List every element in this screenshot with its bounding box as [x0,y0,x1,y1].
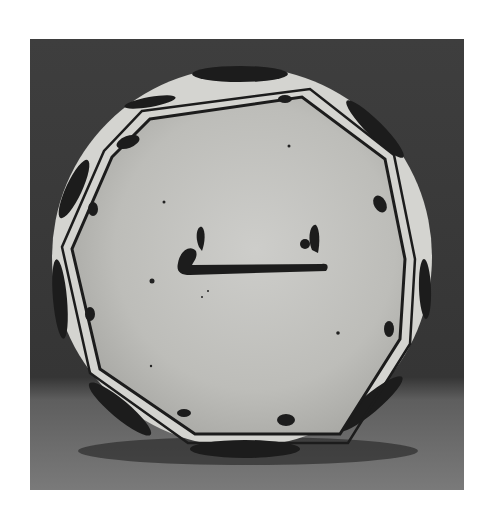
photograph: Ceramic plate with slip-painted decorati… [30,39,464,490]
plate-photo-svg [30,39,464,490]
plate [50,66,433,458]
